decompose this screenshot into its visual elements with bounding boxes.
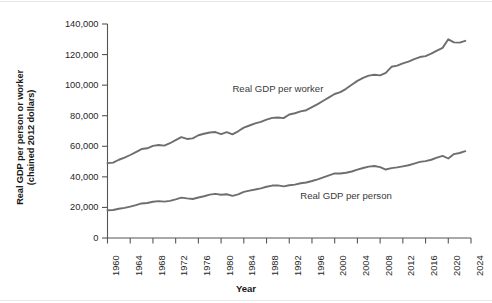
x-tick-label-5: 1980 bbox=[225, 255, 235, 276]
y-tick-label-4: 80,000 bbox=[0, 111, 99, 121]
y-tick-label-3: 60,000 bbox=[0, 141, 99, 151]
chart-figure: Real GDP per person or worker (chained 2… bbox=[0, 0, 492, 303]
y-tick-label-7: 140,000 bbox=[0, 19, 99, 29]
x-tick-label-11: 2004 bbox=[361, 255, 371, 276]
x-tick-label-16: 2024 bbox=[475, 255, 485, 276]
y-tick-label-0: 0 bbox=[0, 233, 99, 243]
x-tick-label-13: 2012 bbox=[406, 255, 416, 276]
x-tick-label-14: 2016 bbox=[429, 255, 439, 276]
series-annotation-0: Real GDP per worker bbox=[232, 83, 323, 94]
series-line-0 bbox=[108, 39, 466, 163]
x-tick-label-8: 1992 bbox=[293, 255, 303, 276]
x-tick-label-15: 2020 bbox=[452, 255, 462, 276]
y-tick-label-5: 100,000 bbox=[0, 80, 99, 90]
x-tick-label-6: 1984 bbox=[247, 255, 257, 276]
axes-group bbox=[102, 24, 471, 244]
line-chart-plot bbox=[0, 0, 492, 303]
y-tick-label-2: 40,000 bbox=[0, 172, 99, 182]
x-tick-label-7: 1988 bbox=[270, 255, 280, 276]
x-tick-label-0: 1960 bbox=[111, 255, 121, 276]
x-tick-label-3: 1972 bbox=[179, 255, 189, 276]
x-tick-label-10: 2000 bbox=[338, 255, 348, 276]
x-axis-title: Year bbox=[0, 283, 492, 294]
y-tick-label-1: 20,000 bbox=[0, 202, 99, 212]
x-tick-label-12: 2008 bbox=[384, 255, 394, 276]
y-tick-label-6: 120,000 bbox=[0, 50, 99, 60]
x-tick-label-2: 1968 bbox=[157, 255, 167, 276]
series-line-1 bbox=[108, 151, 466, 210]
series-annotation-1: Real GDP per person bbox=[300, 190, 392, 201]
series-group bbox=[108, 39, 466, 210]
x-tick-label-1: 1964 bbox=[134, 255, 144, 276]
x-tick-label-9: 1996 bbox=[316, 255, 326, 276]
x-tick-label-4: 1976 bbox=[202, 255, 212, 276]
